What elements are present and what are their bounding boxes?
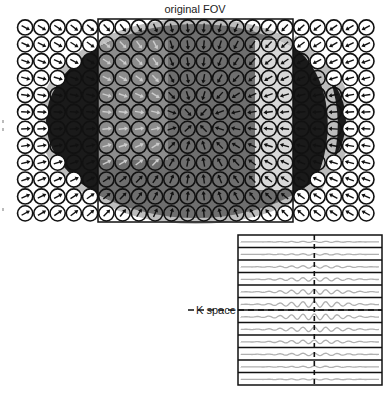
coil-array-diagram bbox=[0, 0, 390, 395]
kspace-panel bbox=[188, 235, 382, 385]
